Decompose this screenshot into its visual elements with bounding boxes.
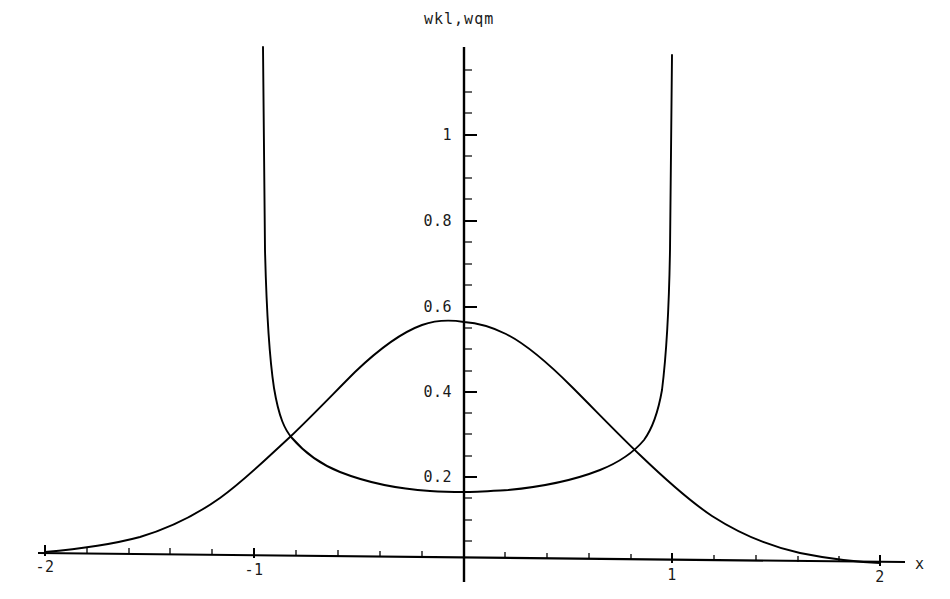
x-axis-line bbox=[38, 553, 905, 562]
plot-canvas bbox=[0, 0, 950, 599]
x-tick-label--1: -1 bbox=[234, 561, 274, 579]
y-tick-label-0.2: 0.2 bbox=[392, 468, 452, 486]
curve-wqm bbox=[45, 321, 880, 563]
x-tick-label-2: 2 bbox=[860, 568, 900, 586]
y-tick-label-0.8: 0.8 bbox=[392, 212, 452, 230]
y-tick-label-1: 1 bbox=[392, 126, 452, 144]
y-axis-group bbox=[464, 47, 477, 582]
y-tick-label-0.6: 0.6 bbox=[392, 298, 452, 316]
y-major-ticks bbox=[464, 135, 477, 477]
plot-root: wkl,wqm x 1 0.8 0.6 0.4 0.2 -2 -1 1 2 bbox=[0, 0, 950, 599]
y-minor-ticks bbox=[464, 70, 472, 541]
x-axis-title: x bbox=[915, 555, 925, 573]
chart-title: wkl,wqm bbox=[424, 10, 494, 28]
x-axis-group bbox=[38, 545, 905, 566]
y-tick-label-0.4: 0.4 bbox=[392, 383, 452, 401]
x-tick-label-1: 1 bbox=[652, 566, 692, 584]
x-tick-label--2: -2 bbox=[25, 558, 65, 576]
